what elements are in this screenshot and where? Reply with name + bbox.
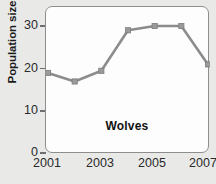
data-point-2001 — [46, 70, 51, 75]
x-axis-tick-labels: 2001 2003 2005 2007 — [0, 157, 216, 177]
data-point-2003 — [99, 68, 104, 73]
data-point-2002 — [72, 79, 77, 84]
data-point-2004 — [125, 28, 130, 33]
wolves-series-line — [48, 26, 208, 81]
y-tick-label-20: 20 — [16, 62, 38, 75]
chart-figure: Population size 30 20 10 0 Wolves 2001 2… — [0, 0, 216, 184]
data-point-2005 — [152, 23, 157, 28]
data-point-2006 — [179, 23, 184, 28]
series-label-wolves: Wolves — [45, 119, 209, 133]
data-point-2007 — [205, 62, 210, 67]
x-tick-label-2001: 2001 — [25, 157, 69, 170]
y-tick-label-30: 30 — [16, 19, 38, 32]
x-tick-label-2005: 2005 — [130, 157, 174, 170]
x-tick-label-2007: 2007 — [181, 157, 216, 170]
x-tick-label-2003: 2003 — [78, 157, 122, 170]
y-tick-label-10: 10 — [16, 104, 38, 117]
